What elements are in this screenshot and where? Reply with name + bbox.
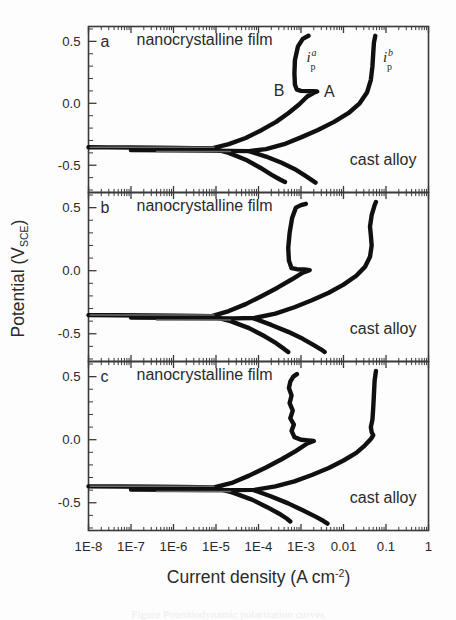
- y-tick-label: 0.5: [62, 200, 80, 215]
- y-axis-title-main: Potential (V: [8, 247, 28, 338]
- curve-nanocrystalline-film-cathodic: [214, 488, 290, 522]
- y-tick-label: -0.5: [58, 326, 81, 341]
- figure-root: 0.50.0-0.50.50.0-0.50.50.0-0.51E-81E-71E…: [0, 0, 456, 620]
- panel-letter-c: c: [101, 368, 109, 385]
- y-tick-label: 0.0: [62, 96, 80, 111]
- x-tick-label: 0.1: [377, 539, 395, 554]
- label-cast-alloy: cast alloy: [350, 151, 417, 168]
- x-tick-label: 1E-4: [245, 539, 273, 554]
- x-tick-label: 1: [425, 539, 432, 554]
- x-axis-title-main: Current density (A cm: [167, 567, 335, 587]
- label-nanocrystalline-film: nanocrystalline film: [137, 31, 273, 48]
- curve-nanocrystalline-film-cathodic: [212, 316, 288, 352]
- panel-letter-b: b: [101, 199, 110, 216]
- x-tick-label: 1E-5: [202, 539, 230, 554]
- annotation-ip-a-subscript: p: [311, 61, 316, 72]
- curve-nanocrystalline-film: [89, 204, 310, 316]
- annotations-group: 0.50.0-0.50.50.0-0.50.50.0-0.51E-81E-71E…: [8, 31, 432, 587]
- y-tick-label: -0.5: [58, 495, 81, 510]
- y-tick-label: 0.5: [62, 34, 80, 49]
- x-tick-label: 1E-8: [75, 539, 103, 554]
- x-tick-label: 1E-7: [117, 539, 145, 554]
- curve-nanocrystalline-film: [89, 374, 314, 487]
- x-tick-label: 0.01: [331, 539, 357, 554]
- y-tick-label: -0.5: [58, 158, 81, 173]
- x-axis-title-exponent: -2: [335, 567, 344, 579]
- y-axis-title-close: ): [8, 220, 28, 226]
- y-tick-label: 0.0: [62, 432, 80, 447]
- annotation-point-a: A: [324, 83, 335, 100]
- label-nanocrystalline-film: nanocrystalline film: [137, 366, 273, 383]
- x-axis-title-close: ): [344, 567, 350, 587]
- panel-letter-a: a: [101, 33, 110, 50]
- annotation-ip-a-superscript: a: [312, 47, 317, 58]
- annotation-point-b: B: [274, 82, 285, 99]
- x-tick-label: 1E-3: [287, 539, 315, 554]
- label-cast-alloy: cast alloy: [350, 489, 417, 506]
- y-axis-title: Potential (VSCE): [8, 220, 30, 338]
- y-axis-title-subscript: SCE: [18, 225, 30, 247]
- axes-group: [89, 27, 429, 531]
- y-tick-label: 0.0: [62, 263, 80, 278]
- y-tick-label: 0.5: [62, 369, 80, 384]
- curves-group: [89, 36, 376, 524]
- x-tick-label: 1E-6: [160, 539, 188, 554]
- annotation-ip-b-superscript: b: [388, 47, 393, 58]
- x-axis-title: Current density (A cm-2): [167, 567, 350, 587]
- curve-nanocrystalline-film-cathodic: [212, 148, 285, 182]
- annotation-ip-b-subscript: p: [387, 61, 392, 72]
- label-nanocrystalline-film: nanocrystalline film: [137, 197, 273, 214]
- polarization-curves-figure: 0.50.0-0.50.50.0-0.50.50.0-0.51E-81E-71E…: [0, 0, 456, 620]
- label-cast-alloy: cast alloy: [350, 320, 417, 337]
